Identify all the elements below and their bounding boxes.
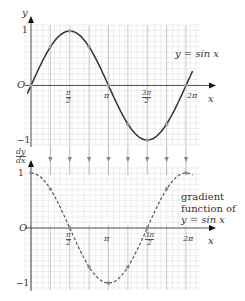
bottom-tick-3pi-over-2: 3π2 bbox=[145, 232, 154, 247]
bottom-tick-pi-over-2: π2 bbox=[66, 232, 71, 247]
bottom-y-tick-1: 1 bbox=[18, 169, 24, 178]
top-origin-label: O bbox=[17, 80, 25, 90]
bottom-y-tick-minus-1: −1 bbox=[16, 279, 29, 288]
gradient-annotation: gradientfunction ofy = sin x bbox=[181, 191, 236, 226]
chart-canvas bbox=[0, 0, 245, 301]
top-y-axis-label: y bbox=[22, 8, 28, 18]
top-y-tick-1: 1 bbox=[22, 26, 28, 35]
top-tick-pi-over-2: π2 bbox=[66, 90, 71, 105]
top-tick-2pi: 2π bbox=[187, 92, 197, 100]
top-tick-pi: π bbox=[104, 92, 109, 100]
bottom-tick-pi: π bbox=[104, 235, 109, 243]
top-x-axis-label: x bbox=[208, 94, 214, 104]
bottom-x-axis-label: x bbox=[208, 236, 214, 246]
top-y-tick-minus-1: −1 bbox=[17, 136, 30, 145]
bottom-y-axis-label: dydx bbox=[16, 148, 26, 165]
bottom-tick-2pi: 2π bbox=[183, 235, 193, 243]
curve-label: y = sin x bbox=[175, 48, 219, 60]
top-tick-3pi-over-2: 3π2 bbox=[142, 90, 151, 105]
bottom-origin-label: O bbox=[19, 223, 27, 233]
